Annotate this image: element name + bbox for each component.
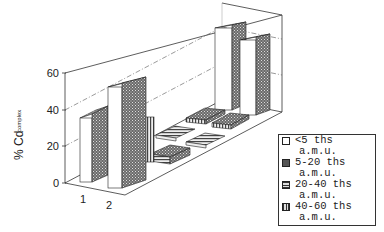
bar-lt5-cat1 [80, 106, 108, 182]
y-tick-20: 20 [47, 140, 59, 152]
y-tick-0: 0 [53, 177, 59, 189]
legend-swatch-stipple [282, 159, 290, 167]
bar-flat-row2-cat2 [186, 133, 225, 148]
x-tick-2: 2 [106, 199, 112, 211]
y-tick-40: 40 [47, 104, 59, 116]
svg-text:% Cd: % Cd [12, 131, 26, 160]
bar-40-60-cat2 [240, 34, 270, 115]
bar-flat-row2-cat1 [156, 126, 195, 141]
svg-text:complex: complex [16, 110, 22, 132]
legend-item-40-60: 40-60 ths a.m.u. [279, 201, 375, 223]
legend-swatch-hhatch [282, 181, 290, 189]
bar-flat-row1-cat1 [150, 145, 190, 164]
legend-swatch-white [282, 137, 290, 145]
bar-lt5-cat2 [108, 77, 146, 188]
y-tick-labels: 60 40 20 0 [47, 67, 59, 189]
y-tick-60: 60 [47, 67, 59, 79]
legend-swatch-vhatch [282, 203, 290, 211]
legend-item-20-40: 20-40 ths a.m.u. [279, 179, 375, 201]
y-axis-label: % Cd complex [12, 110, 26, 160]
bar-vhatch-partial [145, 117, 154, 162]
x-tick-1: 1 [80, 193, 86, 205]
legend-item-5-20: 5-20 ths a.m.u. [279, 157, 375, 179]
legend: <5 ths a.m.u. 5-20 ths a.m.u. 20-40 ths … [278, 134, 376, 226]
legend-item-lt5: <5 ths a.m.u. [279, 135, 375, 157]
